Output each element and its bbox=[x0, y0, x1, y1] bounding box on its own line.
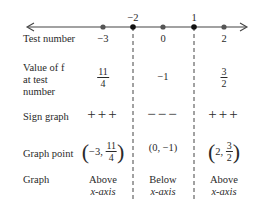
fraction: 11 4 bbox=[97, 66, 109, 89]
label-line: at test bbox=[23, 74, 64, 86]
critical-point-label: −2 bbox=[127, 12, 138, 24]
value-of-f-fraction: 3 2 bbox=[221, 66, 228, 89]
right-paren: ) bbox=[117, 139, 124, 164]
critical-point-label: 1 bbox=[191, 12, 196, 24]
row-label-sign-graph: Sign graph bbox=[23, 111, 69, 123]
position-word: Below bbox=[149, 174, 176, 186]
graph-point-value: (−3, 11 4 ) bbox=[82, 140, 125, 163]
numerator: 11 bbox=[105, 140, 117, 152]
value-of-f-fraction: 11 4 bbox=[97, 66, 109, 89]
point-x: −3, bbox=[89, 146, 103, 157]
test-number-value: 2 bbox=[221, 33, 226, 45]
row-label-graph-point: Graph point bbox=[23, 148, 73, 160]
position-word: Above bbox=[89, 174, 117, 186]
graph-position: Above x-axis bbox=[89, 174, 117, 198]
right-paren: ) bbox=[233, 139, 240, 164]
label-line: Value of f bbox=[23, 62, 64, 74]
position-word: Above bbox=[210, 174, 238, 186]
graph-point-value: (2, 3 2 ) bbox=[208, 140, 240, 163]
row-label-graph: Graph bbox=[23, 174, 49, 186]
sign-plus: +++ bbox=[208, 108, 239, 120]
denominator: 2 bbox=[227, 152, 232, 163]
denominator: 4 bbox=[100, 78, 105, 89]
sign-minus: −−− bbox=[147, 108, 178, 120]
test-number-value: −3 bbox=[97, 33, 108, 45]
test-number-value: 0 bbox=[160, 33, 165, 45]
fraction: 3 2 bbox=[221, 66, 228, 89]
numerator: 11 bbox=[97, 66, 109, 78]
numerator: 3 bbox=[221, 66, 228, 78]
denominator: 4 bbox=[109, 152, 114, 163]
graph-position: Below x-axis bbox=[149, 174, 176, 198]
axis-word: x-axis bbox=[89, 186, 117, 198]
numerator: 3 bbox=[226, 140, 233, 152]
point-x: 2, bbox=[215, 146, 223, 157]
fraction: 11 4 bbox=[105, 140, 117, 163]
graph-point-value: (0, −1) bbox=[149, 142, 178, 154]
critical-point-dot bbox=[191, 24, 197, 30]
test-point-dot bbox=[221, 24, 226, 29]
axis-word: x-axis bbox=[210, 186, 238, 198]
row-label-test-number: Test number bbox=[23, 33, 75, 45]
fraction: 3 2 bbox=[226, 140, 233, 163]
sign-plus: +++ bbox=[87, 108, 118, 120]
label-line: number bbox=[23, 86, 64, 98]
test-point-dot bbox=[100, 24, 105, 29]
critical-point-dot bbox=[130, 24, 136, 30]
denominator: 2 bbox=[222, 78, 227, 89]
row-label-value-of-f: Value of f at test number bbox=[23, 62, 64, 98]
value-of-f-value: −1 bbox=[157, 71, 168, 83]
test-point-dot bbox=[160, 24, 165, 29]
axis-word: x-axis bbox=[149, 186, 176, 198]
graph-position: Above x-axis bbox=[210, 174, 238, 198]
